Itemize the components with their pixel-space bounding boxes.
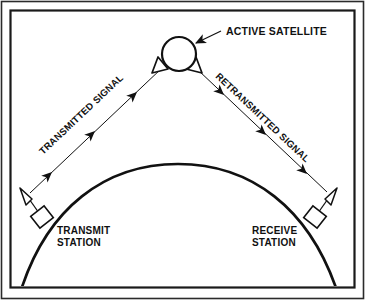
satellite-body-icon xyxy=(162,37,196,71)
receive-station-label-line1: RECEIVE xyxy=(252,225,297,236)
transmit-station-label-line2: STATION xyxy=(57,237,101,248)
receive-station-label-line2: STATION xyxy=(252,237,296,248)
satellite-link-diagram: ACTIVE SATELLITE TRANSMITTED SIGNAL RETR… xyxy=(0,0,365,300)
transmit-station-label-line1: TRANSMIT xyxy=(57,225,110,236)
active-satellite-label: ACTIVE SATELLITE xyxy=(226,25,327,37)
diagram-canvas: ACTIVE SATELLITE TRANSMITTED SIGNAL RETR… xyxy=(0,0,365,300)
